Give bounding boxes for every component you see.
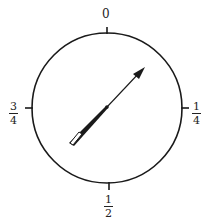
label-one-quarter-denominator: 4 — [192, 115, 201, 126]
label-one-half-numerator: 1 — [104, 194, 113, 205]
label-three-quarters: 3 4 — [9, 100, 18, 126]
label-one-half: 1 2 — [104, 193, 113, 219]
label-one-quarter: 1 4 — [192, 100, 201, 126]
needle-pivot — [105, 105, 109, 109]
label-three-quarters-numerator: 3 — [9, 101, 18, 112]
label-one-half-denominator: 2 — [104, 208, 113, 219]
label-zero: 0 — [102, 8, 110, 20]
label-one-quarter-numerator: 1 — [192, 101, 201, 112]
label-zero-text: 0 — [102, 7, 110, 21]
spinner-dial — [0, 0, 212, 222]
label-three-quarters-denominator: 4 — [9, 115, 18, 126]
needle-shaft — [107, 72, 140, 107]
